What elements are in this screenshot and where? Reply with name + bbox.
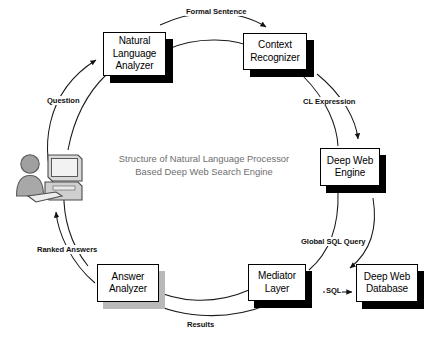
node-natural-language-analyzer[interactable]: Natural Language Analyzer	[103, 32, 166, 76]
node-label: Context Recognizer	[250, 39, 300, 64]
node-deep-web-engine[interactable]: Deep Web Engine	[320, 148, 380, 186]
edge-label-global-sql-query: Global SQL Query	[300, 237, 366, 246]
arc-global-sql	[350, 198, 374, 268]
person-icon	[17, 155, 44, 196]
node-label: Deep Web Database	[364, 271, 410, 296]
edge-label-question: Question	[46, 96, 81, 105]
diagram-caption: Structure of Natural Language Processor …	[108, 152, 300, 178]
edge-label-formal-sentence: Formal Sentence	[185, 7, 247, 16]
node-context-recognizer[interactable]: Context Recognizer	[243, 33, 307, 70]
edge-label-ranked-answers: Ranked Answers	[36, 245, 98, 254]
node-deep-web-database[interactable]: Deep Web Database	[356, 264, 418, 302]
edge-label-cl-expression: CL Expression	[302, 97, 356, 106]
edge-label-results: Results	[186, 320, 215, 329]
node-mediator-layer[interactable]: Mediator Layer	[248, 264, 306, 301]
node-label: Answer Analyzer	[109, 271, 147, 296]
inner-ring-left-upper	[68, 74, 107, 150]
edge-label-sql: SQL	[325, 286, 342, 295]
node-label: Deep Web Engine	[327, 155, 373, 180]
arc-cl-expression	[317, 74, 358, 139]
node-label: Mediator Layer	[258, 270, 296, 295]
node-answer-analyzer[interactable]: Answer Analyzer	[97, 264, 159, 302]
node-label: Natural Language Analyzer	[113, 35, 157, 73]
user-at-computer-icon	[12, 148, 90, 214]
diagram-canvas: Natural Language Analyzer Context Recogn…	[0, 0, 440, 338]
inner-ring-right-upper	[303, 76, 338, 146]
inner-ring-right-lower	[309, 192, 338, 270]
